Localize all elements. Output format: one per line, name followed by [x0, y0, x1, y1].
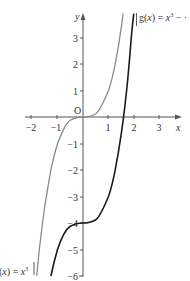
curve-f-x-cubed: [37, 14, 123, 276]
origin-label: O: [74, 105, 81, 116]
y-tick-label: −3: [67, 192, 78, 203]
x-axis-label: x: [175, 122, 181, 133]
cubic-graph: −2 −1 1 2 3 3 2 1 −1 −2 −3 −4 −5 −6 y x …: [0, 0, 190, 281]
y-tick-label: 1: [73, 86, 78, 97]
y-axis-arrow-icon: [81, 13, 86, 20]
x-tick-label: −2: [26, 122, 37, 133]
x-axis-arrow-icon: [175, 115, 182, 120]
x-tick-label: 1: [106, 122, 111, 133]
x-tick-label: 3: [157, 122, 162, 133]
y-tick-label: −6: [67, 271, 78, 281]
x-tick-label: 2: [132, 122, 137, 133]
y-tick-label: −2: [67, 165, 78, 176]
y-tick-label: −1: [67, 139, 78, 150]
f-curve-label: (x) = x3: [0, 266, 28, 278]
y-tick-label: −5: [67, 245, 78, 256]
y-tick-label: 2: [73, 59, 78, 70]
y-tick-label: 3: [73, 33, 78, 44]
g-curve-label: g(x) = x3 − ·: [139, 12, 187, 24]
curve-g-x-cubed-minus-4: [51, 14, 134, 276]
x-tick-label: −1: [51, 122, 62, 133]
y-axis-label: y: [74, 11, 80, 22]
